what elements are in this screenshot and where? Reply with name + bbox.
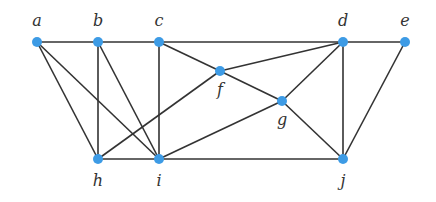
node-g <box>277 96 287 106</box>
node-i <box>154 154 164 164</box>
node-d <box>338 37 348 47</box>
node-label-a: a <box>32 11 42 30</box>
edge-e-j <box>343 42 405 159</box>
node-label-h: h <box>93 171 103 190</box>
node-c <box>154 37 164 47</box>
edge-a-h <box>37 42 98 159</box>
node-a <box>32 37 42 47</box>
graph-svg: abcdefghij <box>0 0 436 202</box>
edge-g-d <box>282 42 343 101</box>
edge-f-g <box>220 71 282 101</box>
edge-f-d <box>220 42 343 71</box>
edge-g-j <box>282 101 343 159</box>
edge-b-i <box>98 42 159 159</box>
edge-c-f <box>159 42 220 71</box>
labels-group: abcdefghij <box>32 11 410 190</box>
node-j <box>338 154 348 164</box>
node-label-b: b <box>93 11 103 30</box>
node-label-j: j <box>338 171 346 190</box>
nodes-group <box>32 37 410 164</box>
node-label-g: g <box>277 110 287 129</box>
node-e <box>400 37 410 47</box>
node-f <box>215 66 225 76</box>
graph-diagram: abcdefghij <box>0 0 436 202</box>
node-b <box>93 37 103 47</box>
node-label-f: f <box>216 80 226 99</box>
node-label-i: i <box>156 171 161 190</box>
node-label-d: d <box>338 11 348 30</box>
edges-group <box>37 42 405 159</box>
node-label-c: c <box>155 11 164 30</box>
edge-g-i <box>159 101 282 159</box>
node-label-e: e <box>400 11 409 30</box>
node-h <box>93 154 103 164</box>
